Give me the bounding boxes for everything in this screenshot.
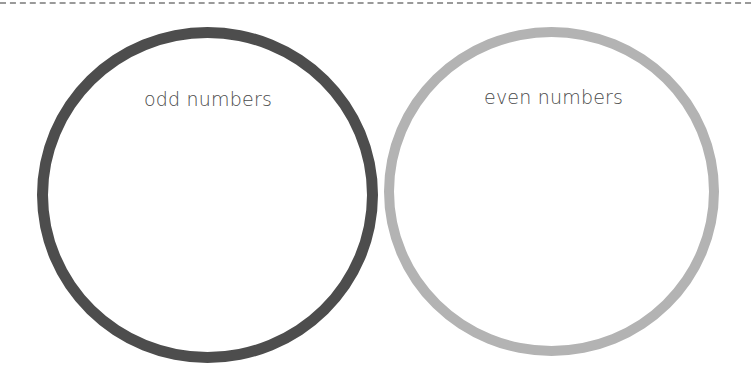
dashed-cut-line <box>0 2 751 4</box>
even-numbers-label: even numbers <box>484 86 623 108</box>
odd-numbers-circle <box>37 27 378 363</box>
even-numbers-circle <box>384 27 719 356</box>
odd-numbers-label: odd numbers <box>144 88 272 110</box>
